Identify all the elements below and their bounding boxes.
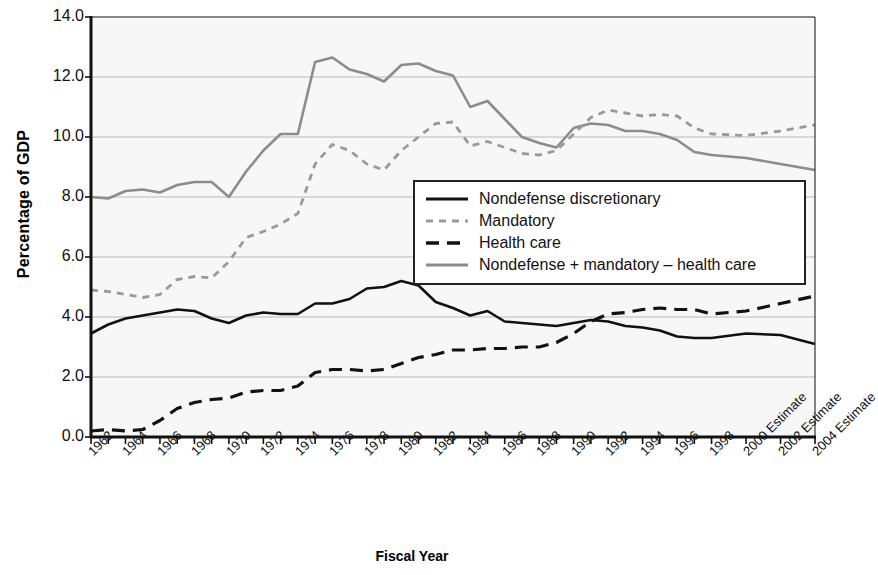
- y-tick-label: 4.0: [28, 307, 84, 325]
- legend-item: Nondefense + mandatory – health care: [425, 254, 794, 276]
- chart-legend: Nondefense discretionaryMandatoryHealth …: [413, 180, 806, 285]
- legend-label: Nondefense + mandatory – health care: [479, 256, 756, 274]
- legend-label: Mandatory: [479, 212, 555, 230]
- y-tick-label: 14.0: [28, 7, 84, 25]
- legend-line-swatch: [425, 214, 469, 228]
- y-tick-label: 0.0: [28, 427, 84, 445]
- legend-line-swatch: [425, 258, 469, 272]
- legend-label: Health care: [479, 234, 561, 252]
- y-axis-tick-labels: 0.02.04.06.08.010.012.014.0: [26, 0, 84, 575]
- y-tick-label: 10.0: [28, 127, 84, 145]
- y-tick-label: 6.0: [28, 247, 84, 265]
- legend-line-swatch: [425, 192, 469, 206]
- y-tick-label: 12.0: [28, 67, 84, 85]
- legend-item: Mandatory: [425, 210, 794, 232]
- y-tick-label: 2.0: [28, 367, 84, 385]
- y-tick-label: 8.0: [28, 187, 84, 205]
- legend-item: Health care: [425, 232, 794, 254]
- legend-line-swatch: [425, 236, 469, 250]
- legend-label: Nondefense discretionary: [479, 190, 660, 208]
- x-axis-title: Fiscal Year: [0, 548, 824, 564]
- legend-item: Nondefense discretionary: [425, 188, 794, 210]
